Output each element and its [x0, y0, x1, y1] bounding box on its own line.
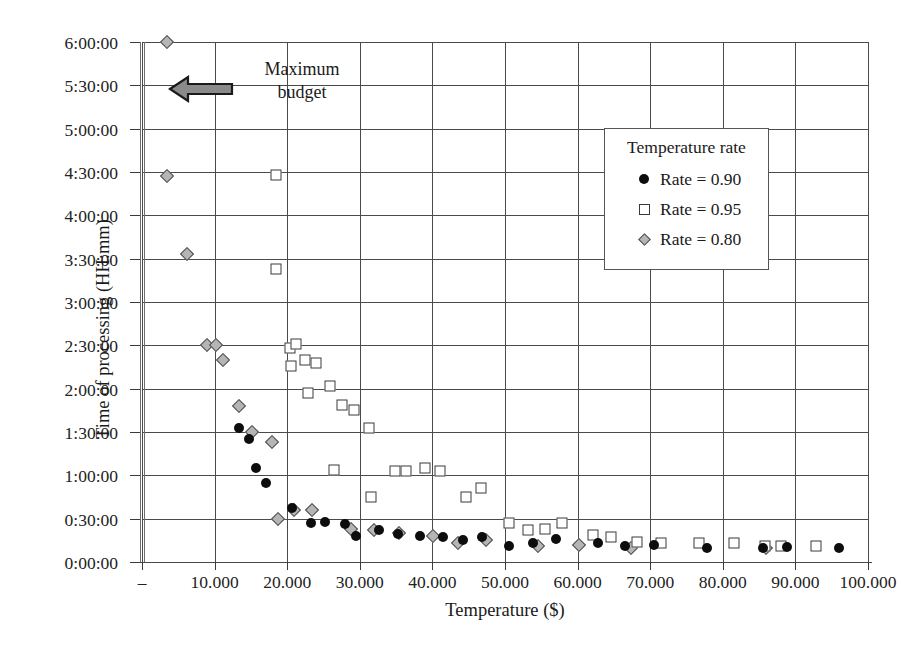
y-axis-tick — [130, 389, 140, 390]
data-point — [458, 535, 468, 545]
annotation-line: Maximum — [222, 58, 382, 81]
data-point — [302, 388, 313, 399]
gridline-vertical — [287, 42, 288, 562]
y-axis-line — [140, 42, 141, 563]
gridline-vertical — [360, 42, 361, 562]
legend-item-label: Rate = 0.95 — [660, 199, 741, 220]
x-axis-tick — [432, 562, 433, 570]
data-point — [328, 464, 339, 475]
x-axis-tick-label: 20.000 — [263, 572, 311, 593]
y-axis-title-holder: Time of processing (HH:mm) — [0, 0, 40, 658]
y-axis-title: Time of processing (HH:mm) — [93, 219, 114, 439]
data-point — [834, 543, 844, 553]
data-point — [728, 538, 739, 549]
gridline-vertical — [215, 42, 216, 562]
legend-item-rate-090[interactable]: Rate = 0.90 — [605, 164, 768, 194]
y-axis-tick — [130, 345, 140, 346]
gridline-vertical — [578, 42, 579, 562]
maximum-budget-label: Maximumbudget — [222, 58, 382, 103]
y-axis-tick — [130, 475, 140, 476]
data-point — [337, 399, 348, 410]
x-axis-tick-label: 90.000 — [771, 572, 819, 593]
data-point — [290, 338, 301, 349]
data-point — [415, 531, 425, 541]
legend-item-rate-080[interactable]: Rate = 0.80 — [605, 224, 768, 254]
data-point — [460, 492, 471, 503]
x-axis-tick-label: 50.000 — [481, 572, 529, 593]
data-point — [632, 536, 643, 547]
x-axis-tick-label: 10.000 — [191, 572, 239, 593]
data-point — [299, 354, 310, 365]
x-axis-tick — [215, 562, 216, 570]
data-point — [234, 423, 244, 433]
x-axis-tick — [723, 562, 724, 570]
y-axis-tick — [130, 562, 140, 563]
x-axis-line — [136, 562, 872, 563]
data-point — [306, 518, 316, 528]
data-point — [364, 422, 375, 433]
data-point — [365, 492, 376, 503]
chart-root: 0:00:000:30:001:00:001:30:002:00:002:30:… — [0, 0, 901, 658]
x-axis-tick — [360, 562, 361, 570]
data-point — [593, 538, 603, 548]
data-point — [351, 531, 361, 541]
legend-item-label: Rate = 0.80 — [660, 229, 741, 250]
data-point — [244, 434, 254, 444]
data-point — [393, 529, 403, 539]
legend-title: Temperature rate — [605, 137, 768, 158]
data-point — [504, 541, 514, 551]
data-point — [557, 518, 568, 529]
data-point — [620, 541, 630, 551]
y-axis-line-inner — [144, 42, 145, 563]
data-point — [551, 534, 561, 544]
y-axis-tick — [130, 432, 140, 433]
x-axis-tick-label: 30.000 — [336, 572, 384, 593]
data-point — [261, 478, 271, 488]
x-axis-tick — [578, 562, 579, 570]
x-axis-tick-label: 100.000 — [840, 572, 897, 593]
legend-item-label: Rate = 0.90 — [660, 169, 741, 190]
x-axis-tick — [287, 562, 288, 570]
y-axis-tick — [130, 215, 140, 216]
y-axis-tick — [130, 519, 140, 520]
data-point — [702, 543, 712, 553]
data-point — [325, 380, 336, 391]
gridline-vertical — [650, 42, 651, 562]
filled-circle-icon — [635, 174, 653, 184]
data-point — [649, 540, 659, 550]
open-square-icon — [635, 204, 653, 215]
y-axis-tick — [130, 259, 140, 260]
data-point — [348, 405, 359, 416]
gridline-vertical — [505, 42, 506, 562]
x-axis-title: Temperature ($) — [142, 600, 868, 621]
data-point — [477, 532, 487, 542]
gray-diamond-icon — [635, 235, 653, 244]
data-point — [810, 541, 821, 552]
x-axis-tick — [795, 562, 796, 570]
data-point — [528, 538, 538, 548]
data-point — [287, 503, 297, 513]
data-point — [504, 518, 515, 529]
y-axis-tick — [130, 85, 140, 86]
data-point — [420, 463, 431, 474]
data-point — [320, 517, 330, 527]
y-axis-tick — [130, 172, 140, 173]
data-point — [311, 357, 322, 368]
data-point — [438, 532, 448, 542]
annotation-line: budget — [222, 81, 382, 104]
x-axis-tick — [142, 562, 143, 570]
plot-area — [142, 42, 868, 562]
legend-item-rate-095[interactable]: Rate = 0.95 — [605, 194, 768, 224]
x-axis-tick-label: – — [138, 572, 147, 593]
x-axis-tick — [505, 562, 506, 570]
data-point — [271, 263, 282, 274]
gridline-vertical — [723, 42, 724, 562]
data-point — [434, 466, 445, 477]
data-point — [285, 360, 296, 371]
data-point — [782, 542, 792, 552]
data-point — [271, 169, 282, 180]
data-point — [476, 483, 487, 494]
data-point — [523, 525, 534, 536]
gridline-vertical — [795, 42, 796, 562]
gridline-vertical — [142, 42, 143, 562]
